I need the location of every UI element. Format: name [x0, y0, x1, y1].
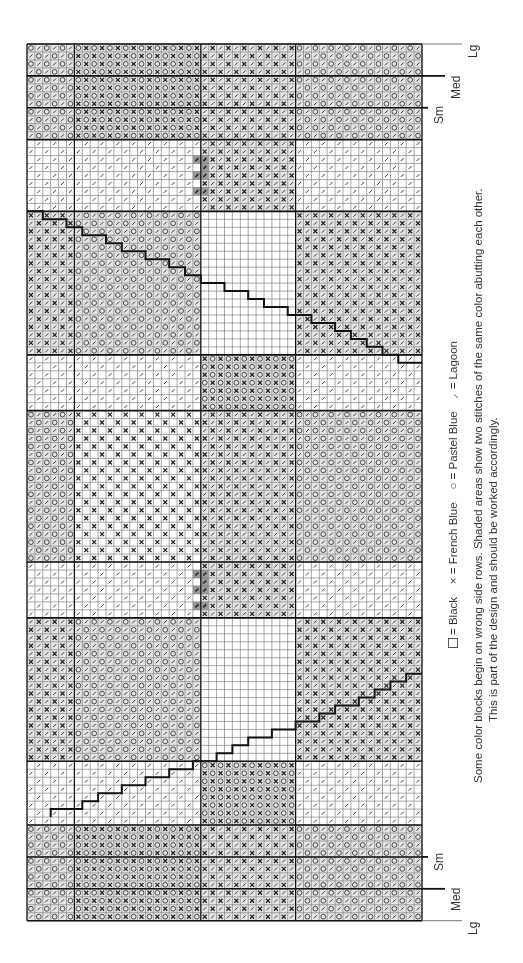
caption-line-1: Some color blocks begin on wrong side ro… — [472, 189, 484, 784]
black-swatch-icon — [448, 638, 458, 648]
size-label-sm-top: Sm — [432, 106, 446, 124]
size-label-sm-bottom: Sm — [432, 853, 446, 871]
french-blue-symbol-icon: × — [447, 577, 459, 584]
legend-pastel-blue: = Pastel Blue — [447, 411, 459, 479]
size-label-lg-bottom: Lg — [466, 922, 480, 935]
size-label-med-top: Med — [449, 76, 463, 99]
legend-french-blue: = French Blue — [447, 502, 459, 574]
pastel-blue-symbol-icon: ○ — [447, 483, 459, 490]
size-label-lg-top: Lg — [466, 45, 480, 58]
size-label-med-bottom: Med — [449, 888, 463, 911]
caption-line-2: This is part of the design and should be… — [487, 417, 499, 722]
lagoon-symbol-icon: ⸝ — [447, 393, 459, 399]
legend: = Black × = French Blue ○ = Pastel Blue … — [445, 341, 460, 648]
legend-lagoon: = Lagoon — [447, 341, 459, 389]
legend-black: = Black — [447, 597, 459, 635]
